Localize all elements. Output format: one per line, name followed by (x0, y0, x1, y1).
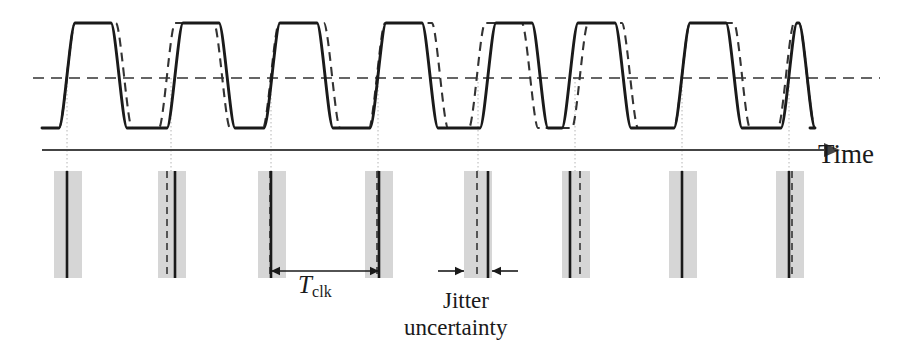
uncertainty-band-2 (158, 171, 186, 278)
jitter-label-line1: Jitter (443, 289, 489, 312)
uncertainty-band-6 (562, 171, 590, 278)
clock-period-label: Tclk (298, 272, 332, 300)
waveform-ideal-clock (42, 23, 815, 128)
clock-period-subscript: clk (312, 283, 332, 300)
jitter-arrowhead-left (455, 267, 464, 275)
jitter-arrowhead-right (492, 267, 501, 275)
clock-jitter-figure: Time Tclk Jitter uncertainty (0, 0, 909, 354)
jitter-label-line2: uncertainty (404, 316, 507, 339)
waveform-jittered-clock (42, 23, 815, 128)
time-axis-label: Time (818, 141, 874, 168)
clock-period-symbol: T (298, 271, 312, 298)
